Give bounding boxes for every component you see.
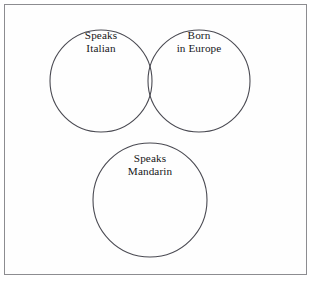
label-speaks-italian-line-2: Italian [85, 42, 117, 55]
label-born-in-europe-line-2: in Europe [177, 42, 222, 55]
label-speaks-mandarin-line-1: Speaks [128, 152, 172, 165]
label-born-in-europe-line-1: Born [177, 29, 222, 42]
label-speaks-italian-line-1: Speaks [85, 29, 117, 42]
venn-diagram-screenshot: Speaks Italian Born in Europe Speaks Man… [0, 0, 315, 283]
label-born-in-europe: Born in Europe [177, 29, 222, 54]
venn-diagram-canvas [0, 0, 315, 283]
label-speaks-italian: Speaks Italian [85, 29, 117, 54]
label-speaks-mandarin: Speaks Mandarin [128, 152, 172, 177]
label-speaks-mandarin-line-2: Mandarin [128, 165, 172, 178]
